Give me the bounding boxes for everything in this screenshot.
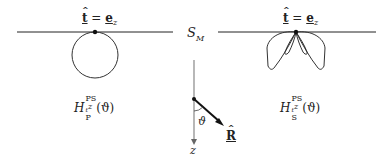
surface-label-sub: M — [196, 34, 204, 43]
equals-sign: = — [88, 11, 106, 25]
caption-h: H — [280, 101, 290, 115]
caption-sup-tail: z — [88, 102, 92, 111]
caption-supsub: PStzP — [85, 95, 96, 122]
right-t-equals-ez-label: t = ez — [283, 12, 318, 27]
angle-arc — [194, 107, 203, 111]
diagram-canvas — [0, 0, 389, 156]
equals-sign: = — [289, 11, 307, 25]
s-wave-caption: HPStzS(ϑ) — [280, 95, 320, 122]
caption-sub: P — [85, 114, 96, 122]
caption-h: H — [74, 101, 84, 115]
p-wave-pattern-circle — [72, 32, 118, 78]
e-symbol: e — [306, 11, 314, 25]
caption-sub: S — [291, 114, 302, 122]
z-subscript: z — [314, 18, 318, 27]
caption-arg: (ϑ) — [96, 101, 114, 115]
caption-arg: (ϑ) — [302, 101, 320, 115]
left-t-equals-ez-label: t = ez — [82, 12, 117, 27]
z-subscript: z — [113, 18, 117, 27]
r-vector-label: R — [226, 130, 236, 142]
t-hat-symbol: t — [82, 12, 88, 24]
s-wave-pattern-lobes — [267, 32, 325, 70]
t-hat-symbol: t — [283, 12, 289, 24]
left-source-dot — [93, 30, 97, 34]
e-symbol: e — [105, 11, 113, 25]
z-axis-label: z — [190, 145, 196, 156]
caption-sup-tail: z — [294, 102, 298, 111]
angle-label: ϑ — [198, 116, 206, 127]
right-source-dot — [294, 30, 298, 34]
caption-supsub: PStzS — [291, 95, 302, 122]
p-wave-caption: HPStzP(ϑ) — [74, 95, 114, 122]
surface-label-main: S — [187, 25, 196, 40]
surface-label: SM — [187, 26, 204, 43]
